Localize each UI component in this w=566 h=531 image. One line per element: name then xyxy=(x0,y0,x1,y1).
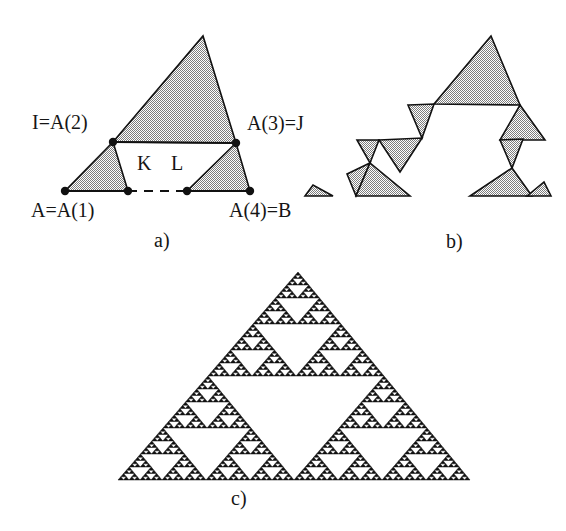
fractal-cell xyxy=(253,334,258,337)
fractal-cell xyxy=(267,457,273,460)
fractal-cell xyxy=(157,431,163,434)
fractal-cell xyxy=(366,477,372,480)
label-I-A2: I=A(2) xyxy=(32,112,88,132)
fractal-cell xyxy=(263,360,269,363)
fractal-cell xyxy=(176,461,182,464)
fractal-cell xyxy=(280,366,286,369)
fractal-cell xyxy=(230,353,236,356)
fractal-cell xyxy=(373,392,379,395)
fractal-cell xyxy=(280,373,286,376)
fractal-cell xyxy=(373,373,379,376)
fractal-cell xyxy=(254,435,260,438)
fractal-cell xyxy=(280,467,286,470)
fractal-cell xyxy=(140,457,146,460)
fractal-cell xyxy=(319,321,325,324)
fractal-cell xyxy=(307,366,313,369)
fractal-cell xyxy=(151,470,157,473)
fractal-cell xyxy=(328,444,334,447)
fractal-cell xyxy=(321,344,327,347)
fractal-cell xyxy=(361,425,367,428)
fractal-cell xyxy=(319,308,325,311)
fractal-cell xyxy=(344,477,350,480)
fractal-cell xyxy=(282,363,288,366)
fractal-cell xyxy=(201,477,207,480)
panel-a-shapes xyxy=(65,36,250,191)
fractal-cell xyxy=(230,360,236,363)
fractal-cell xyxy=(291,373,297,376)
fractal-cell xyxy=(278,305,284,308)
fractal-cell xyxy=(191,425,197,428)
fractal-cell xyxy=(313,373,319,376)
fractal-cell xyxy=(248,428,254,431)
fractal-cell xyxy=(454,464,460,467)
fractal-cell xyxy=(298,295,304,298)
fractal-cell xyxy=(318,360,324,363)
fractal-cell xyxy=(275,301,281,304)
fractal-cell xyxy=(227,402,233,405)
fractal-cell xyxy=(275,461,281,464)
fractal-cell xyxy=(352,461,358,464)
fractal-cell xyxy=(207,425,213,428)
fractal-cell xyxy=(397,409,403,412)
fractal-cell xyxy=(454,477,460,480)
fractal-cell xyxy=(169,425,175,428)
fractal-cell xyxy=(258,347,264,350)
fractal-cell xyxy=(307,360,313,363)
fractal-cell xyxy=(241,366,247,369)
fractal-cell xyxy=(226,454,232,457)
fractal-cell xyxy=(346,347,352,350)
fractal-cell xyxy=(332,344,338,347)
fractal-cell xyxy=(200,383,206,386)
fractal-cell xyxy=(229,405,235,408)
tri-b-8 xyxy=(500,105,545,140)
fractal-cell xyxy=(355,464,361,467)
fractal-cell xyxy=(308,461,314,464)
fractal-cell xyxy=(283,477,289,480)
fractal-cell xyxy=(310,357,316,360)
fractal-cell xyxy=(281,314,287,317)
point-K xyxy=(124,187,132,195)
fractal-cell xyxy=(129,464,135,467)
fractal-cell xyxy=(183,402,189,405)
fractal-cell xyxy=(351,360,357,363)
fractal-cell xyxy=(261,464,267,467)
fractal-cell xyxy=(336,428,342,431)
fractal-cell xyxy=(419,422,425,425)
fractal-cell xyxy=(368,366,374,369)
fractal-cell xyxy=(416,438,422,441)
fractal-cell xyxy=(418,448,424,451)
fractal-cell xyxy=(218,418,224,421)
fractal-cell xyxy=(303,314,309,317)
fractal-cell xyxy=(202,386,208,389)
fractal-cell xyxy=(269,360,275,363)
fractal-cell xyxy=(384,386,390,389)
fractal-cell xyxy=(407,448,413,451)
fractal-cell xyxy=(448,464,454,467)
fractal-cell xyxy=(264,461,270,464)
fractal-cell xyxy=(388,470,394,473)
fractal-cell xyxy=(255,370,260,373)
fractal-cell xyxy=(304,363,310,366)
fractal-cell xyxy=(121,474,127,477)
fractal-cell xyxy=(140,464,146,467)
fractal-cell xyxy=(353,422,359,425)
fractal-cell xyxy=(262,451,268,454)
fractal-cell xyxy=(342,422,348,425)
fractal-cell xyxy=(264,448,270,451)
fractal-cell xyxy=(405,451,411,454)
fractal-cell xyxy=(341,334,347,337)
fractal-cell xyxy=(339,438,345,441)
fractal-cell xyxy=(376,383,382,386)
fractal-cell xyxy=(234,464,240,467)
fractal-cell xyxy=(256,477,262,480)
fractal-cell xyxy=(300,292,306,295)
fractal-cell xyxy=(356,412,362,415)
fractal-cell xyxy=(437,470,443,473)
fractal-cell xyxy=(295,272,301,275)
fractal-cell xyxy=(261,337,267,340)
fractal-cell xyxy=(322,318,328,321)
fractal-cell xyxy=(311,457,317,460)
fractal-cell xyxy=(258,334,264,337)
fractal-cell xyxy=(325,321,331,324)
fractal-cell xyxy=(305,477,311,480)
